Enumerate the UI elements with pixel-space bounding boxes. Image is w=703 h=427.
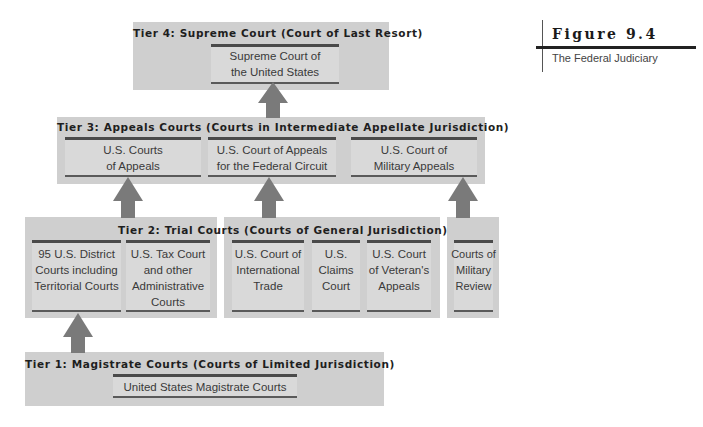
court-line: Court [312,278,360,294]
court-line: Claims [312,262,360,278]
arrow-up-icon [258,82,288,118]
court-district-courts: 95 U.S. District Courts including Territ… [32,240,121,312]
court-military-review: Courts of Military Review [454,240,493,312]
figure-subtitle: The Federal Judiciary [552,52,658,64]
court-line: Courts including [32,262,121,278]
court-international-trade: U.S. Court of International Trade [232,240,304,312]
court-veterans-appeals: U.S. Court of Veteran's Appeals [367,240,431,312]
court-line: Trade [232,278,304,294]
figure-title: Figure 9.4 [552,26,658,42]
court-tax-court: U.S. Tax Court and other Administrative … [126,240,210,312]
court-magistrate-courts: United States Magistrate Courts [113,374,297,398]
court-line: Appeals [367,278,431,294]
figure-title-rule [536,46,696,49]
court-line: Courts of [446,246,501,262]
court-line: U.S. Courts [65,142,201,158]
tier-4-title: Tier 4: Supreme Court (Court of Last Res… [133,27,389,39]
court-line: the United States [211,64,339,80]
court-line: Courts [126,294,210,310]
court-line: Territorial Courts [32,278,121,294]
court-claims-court: U.S. Claims Court [312,240,360,312]
court-line: U.S. Court of [351,142,477,158]
court-federal-circuit: U.S. Court of Appeals for the Federal Ci… [208,137,336,177]
court-line: 95 U.S. District [32,246,121,262]
court-line: of Veteran's [367,262,431,278]
court-line: U.S. Court [367,246,431,262]
court-military-appeals: U.S. Court of Military Appeals [351,137,477,177]
court-line: U.S. Court of Appeals [208,142,336,158]
court-line: Military [446,262,501,278]
court-line: International [232,262,304,278]
court-line: Military Appeals [351,158,477,174]
court-line: for the Federal Circuit [208,158,336,174]
court-line: U.S. Court of [232,246,304,262]
court-line: U.S. [312,246,360,262]
arrow-up-icon [113,177,143,218]
tier-2-title: Tier 2: Trial Courts (Courts of General … [118,224,438,236]
tier-4-supreme-court: Tier 4: Supreme Court (Court of Last Res… [133,22,389,90]
arrow-up-icon [448,177,478,218]
court-line: United States Magistrate Courts [113,379,297,395]
court-line: of Appeals [65,158,201,174]
court-line: Supreme Court of [211,48,339,64]
court-supreme-court: Supreme Court of the United States [211,44,339,84]
arrow-up-icon [63,313,93,353]
tier-3-title: Tier 3: Appeals Courts (Courts in Interm… [57,121,485,133]
tier-1-magistrate-courts: Tier 1: Magistrate Courts (Courts of Lim… [25,352,384,406]
court-line: and other [126,262,210,278]
court-line: Administrative [126,278,210,294]
tier-3-appeals-courts: Tier 3: Appeals Courts (Courts in Interm… [57,117,485,184]
court-us-courts-of-appeals: U.S. Courts of Appeals [65,137,201,177]
arrow-up-icon [254,177,284,218]
court-line: U.S. Tax Court [126,246,210,262]
tier-1-title: Tier 1: Magistrate Courts (Courts of Lim… [25,358,384,370]
court-line: Review [446,278,501,294]
